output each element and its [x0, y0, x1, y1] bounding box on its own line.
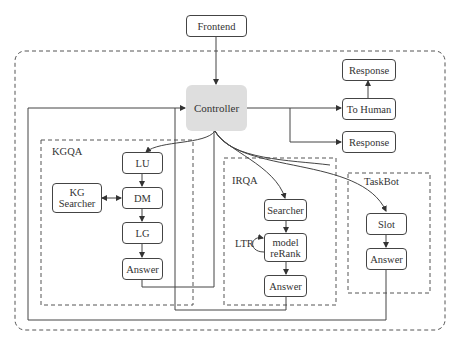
ltr-label: LTR — [235, 238, 254, 249]
kg-searcher-node: KG Searcher — [52, 183, 102, 213]
taskbot-group-label: TaskBot — [364, 176, 399, 187]
taskbot-slot-node: Slot — [366, 213, 407, 235]
kgqa-answer-node: Answer — [122, 258, 163, 280]
kgqa-lu-node: LU — [122, 152, 163, 174]
irqa-group-label: IRQA — [232, 175, 258, 186]
kgqa-group-boundary — [41, 140, 193, 305]
response-top-node: Response — [342, 59, 396, 81]
irqa-rerank-node: model reRank — [264, 233, 307, 262]
irqa-searcher-node: Searcher — [264, 199, 307, 221]
to-human-node: To Human — [342, 98, 396, 120]
kgqa-group-label: KGQA — [52, 146, 82, 157]
response-bottom-node: Response — [342, 131, 396, 153]
frontend-node: Frontend — [186, 15, 247, 37]
diagram-connectors — [0, 0, 459, 343]
controller-node: Controller — [186, 85, 247, 131]
kgqa-dm-node: DM — [122, 187, 163, 209]
kgqa-lg-node: LG — [122, 222, 163, 244]
irqa-answer-node: Answer — [264, 275, 307, 297]
taskbot-answer-node: Answer — [366, 248, 407, 270]
